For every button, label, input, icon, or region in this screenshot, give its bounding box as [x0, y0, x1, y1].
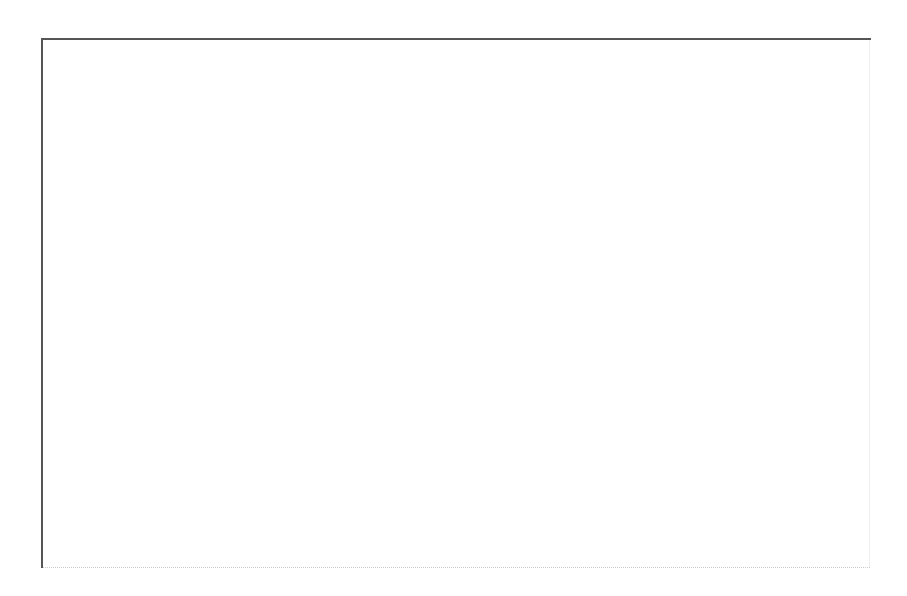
parallel-coordinates-plot [0, 0, 907, 596]
